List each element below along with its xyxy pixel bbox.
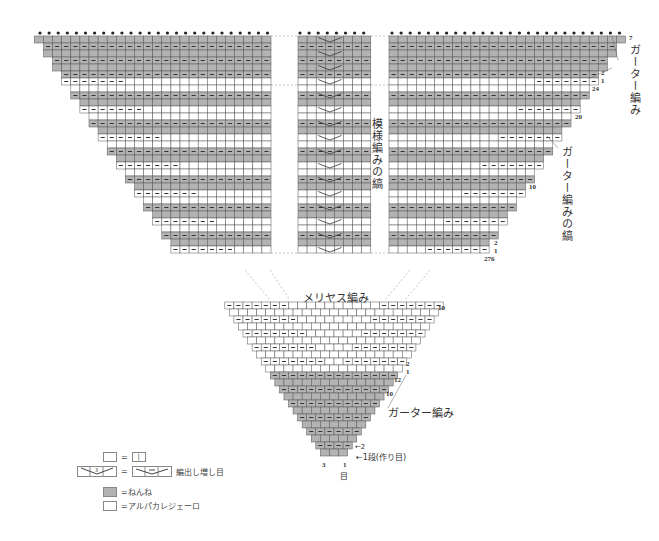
row-number-10-bottom: 10 [386, 391, 393, 398]
legend-increase-eq: = [121, 467, 128, 476]
row-number-2-top: 2 [601, 70, 605, 77]
label-garter-top: ガーター編み [626, 44, 642, 116]
increase-symbol-icon: 3 [77, 466, 117, 477]
svg-text:3: 3 [95, 467, 98, 473]
row-number-10-upper: 10 [529, 184, 536, 191]
label-garter-bottom: ガーター編み [388, 404, 454, 420]
row-number-7: 7 [629, 35, 633, 42]
stitch-label-3: 3 [322, 462, 326, 469]
legend-white-cell-2 [103, 501, 117, 511]
legend-knit: = | [103, 452, 146, 462]
row-number-24: 24 [592, 86, 599, 93]
row-2-marker: ←2 [355, 443, 365, 451]
legend-white-cell [103, 452, 117, 462]
increase-expanded-icon [132, 466, 172, 477]
legend-gray-label: =ねんね [121, 486, 152, 497]
row-number-1-mid: 1 [494, 248, 498, 255]
legend-gray-cell [103, 487, 117, 497]
stitch-unit: 目 [340, 470, 348, 481]
row-number-2-mid: 2 [494, 240, 498, 247]
legend-white: =アルパカレジェーロ [103, 500, 200, 511]
label-stockinette: メリヤス編み [303, 289, 369, 305]
row-number-2-lower: 2 [406, 361, 410, 368]
row-number-12: 12 [394, 377, 401, 384]
legend-knit-symbol: | [132, 452, 146, 462]
legend-white-label: =アルパカレジェーロ [121, 500, 200, 511]
label-garter-stripe: ガーター編みの縞 [558, 146, 574, 242]
row-number-1-lower: 1 [406, 369, 410, 376]
legend-increase: 3 = 編出し増し目 [77, 466, 224, 477]
row-number-276: 276 [484, 256, 495, 263]
row-number-1-top: 1 [601, 78, 605, 85]
legend-increase-label: 編出し増し目 [176, 466, 224, 477]
stitch-label-1: 1 [343, 462, 347, 469]
row-number-10-lower: 10 [438, 305, 445, 312]
row-number-20: 20 [575, 114, 582, 121]
legend-gray: =ねんね [103, 486, 152, 497]
label-pattern-stripe: 模様編みの縞 [368, 118, 384, 190]
legend-knit-eq: = [121, 453, 128, 462]
knitting-chart [0, 0, 659, 541]
row-1-cast-on: ←1段(作り目) [356, 451, 406, 462]
